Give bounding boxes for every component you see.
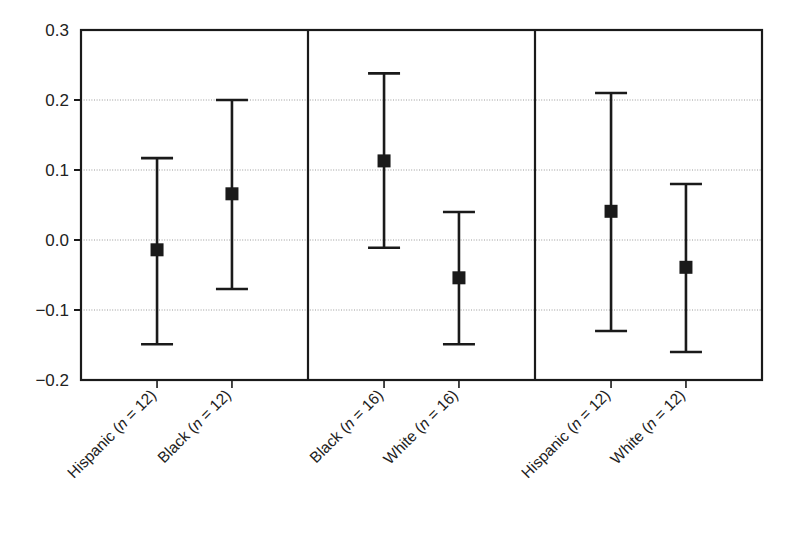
y-axis-tick-label: 0.0 xyxy=(45,231,69,250)
chart-background xyxy=(0,0,790,551)
y-axis-tick-label: 0.1 xyxy=(45,161,69,180)
data-point-marker xyxy=(378,154,391,167)
data-point-marker xyxy=(679,261,692,274)
data-point-marker xyxy=(151,243,164,256)
figure-container: 0.30.20.10.0−0.1−0.2 Hispanic (n = 12)Bl… xyxy=(0,0,790,551)
data-point-marker xyxy=(225,187,238,200)
y-axis-tick-label: −0.1 xyxy=(35,301,69,320)
y-axis-tick-label: −0.2 xyxy=(35,371,69,390)
data-point-marker xyxy=(452,271,465,284)
y-axis-tick-label: 0.3 xyxy=(45,21,69,40)
error-bar-chart: 0.30.20.10.0−0.1−0.2 Hispanic (n = 12)Bl… xyxy=(0,0,790,551)
y-axis-tick-label: 0.2 xyxy=(45,91,69,110)
data-point-marker xyxy=(605,205,618,218)
